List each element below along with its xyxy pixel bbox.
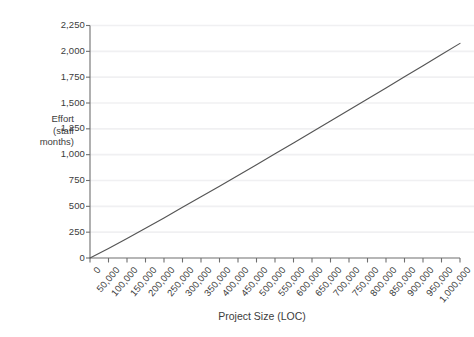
x-axis-tick-label-text: 0 xyxy=(92,265,103,276)
x-axis-title-text: Project Size (LOC) xyxy=(168,310,306,322)
effort-vs-project-size-chart: 02505007501,0001,2501,5001,7502,0002,250… xyxy=(0,0,474,337)
x-axis-tick-labels: 050,000100,000150,000200,000250,000300,0… xyxy=(0,0,474,337)
x-axis-title: Project Size (LOC) xyxy=(0,310,474,322)
